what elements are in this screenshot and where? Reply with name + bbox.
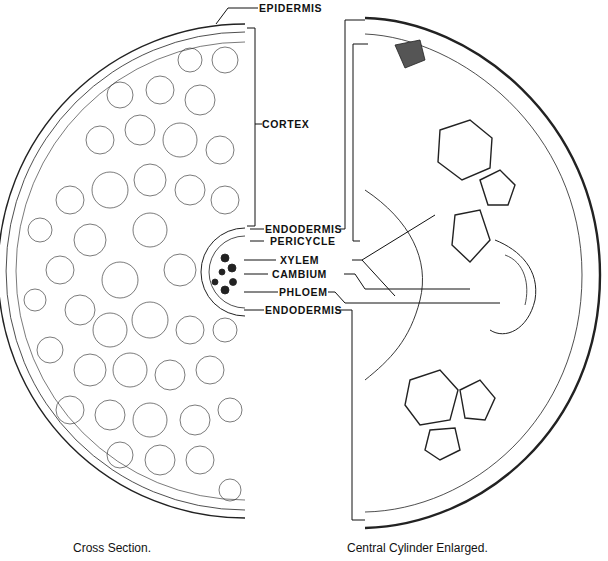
caption-central-cylinder: Central Cylinder Enlarged.: [347, 541, 488, 555]
label-pericycle: PERICYCLE: [270, 235, 336, 247]
leader-lines: [216, 8, 500, 520]
label-cambium: CAMBIUM: [272, 268, 327, 280]
label-endodermis-top: ENDODERMIS: [265, 223, 342, 235]
label-endodermis-bottom: ENDODERMIS: [265, 304, 342, 316]
label-epidermis: EPIDERMIS: [259, 2, 322, 14]
enlarged-cylinder-drawing: [365, 18, 600, 530]
label-phloem: PHLOEM: [279, 286, 328, 298]
root-cross-section-diagram: [0, 0, 608, 561]
label-cortex: CORTEX: [262, 118, 309, 130]
cross-section-drawing: [0, 24, 245, 518]
caption-cross-section: Cross Section.: [73, 541, 151, 555]
label-xylem: XYLEM: [280, 254, 319, 266]
